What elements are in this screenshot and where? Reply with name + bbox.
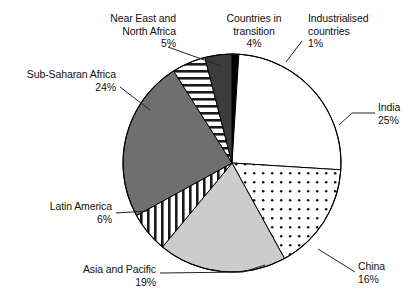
leader-line-asia-pacific <box>160 272 243 273</box>
slice-label-latin-america: Latin America 6% <box>8 200 112 225</box>
leader-line-china <box>318 249 355 272</box>
pie-chart-figure: Near East and North Africa 5% Countries … <box>0 0 408 301</box>
slice-label-china-line1: China <box>358 260 404 273</box>
slice-label-asia-pacific: Asia and Pacific 19% <box>40 263 156 288</box>
slice-label-latin-america-value: 6% <box>8 213 112 226</box>
slice-label-countries-in-transition-line2: transition <box>202 25 306 38</box>
slice-label-india: India 25% <box>378 101 408 126</box>
pie-slices-group <box>123 54 341 272</box>
slice-label-near-east-line2: North Africa <box>56 25 176 38</box>
pie-slice-india[interactable] <box>232 54 341 170</box>
slice-label-near-east-value: 5% <box>56 37 176 50</box>
slice-label-countries-in-transition-line1: Countries in <box>202 12 306 25</box>
slice-label-industrialised-value: 1% <box>308 37 404 50</box>
slice-label-asia-pacific-line1: Asia and Pacific <box>40 263 156 276</box>
slice-label-latin-america-line1: Latin America <box>8 200 112 213</box>
slice-label-asia-pacific-value: 19% <box>40 276 156 289</box>
slice-label-countries-in-transition: Countries in transition 4% <box>202 12 306 50</box>
slice-label-near-east: Near East and North Africa 5% <box>56 12 176 50</box>
slice-label-india-value: 25% <box>378 114 408 127</box>
slice-label-sub-saharan-line1: Sub-Saharan Africa <box>2 68 116 81</box>
leader-line-india-hook <box>339 113 352 125</box>
slice-label-near-east-line1: Near East and <box>56 12 176 25</box>
slice-label-countries-in-transition-value: 4% <box>202 37 306 50</box>
slice-label-china-value: 16% <box>358 273 404 286</box>
slice-label-sub-saharan: Sub-Saharan Africa 24% <box>2 68 116 93</box>
slice-label-sub-saharan-value: 24% <box>2 81 116 94</box>
slice-label-industrialised: Industrialised countries 1% <box>308 12 404 50</box>
slice-label-india-line1: India <box>378 101 408 114</box>
slice-label-industrialised-line2: countries <box>308 25 404 38</box>
slice-label-industrialised-line1: Industrialised <box>308 12 404 25</box>
slice-label-china: China 16% <box>358 260 404 285</box>
